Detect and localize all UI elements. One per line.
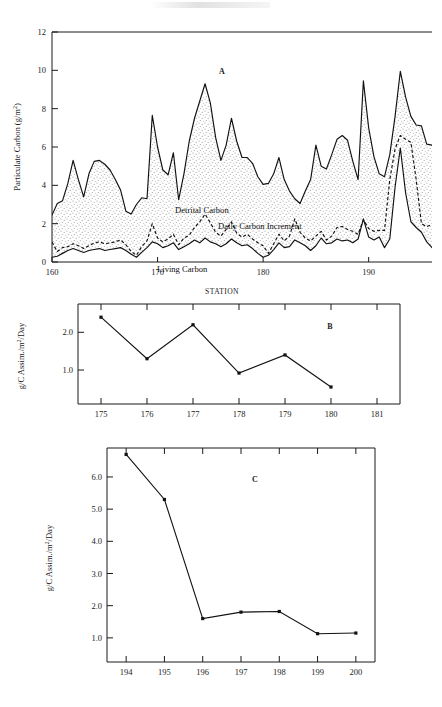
- y-tick-label: 0: [42, 257, 46, 267]
- x-tick-label: 199: [311, 667, 324, 677]
- chart-b-svg: 1.02.0 175176177178179180181 B g/C Assim…: [0, 296, 442, 441]
- chart-c-y-ticks: 1.02.03.04.05.06.0: [91, 472, 113, 643]
- data-point: [99, 316, 102, 319]
- x-tick-label: 200: [349, 667, 362, 677]
- x-tick-label: 176: [141, 409, 154, 419]
- chart-b-y-ticks: 1.02.0: [62, 327, 84, 375]
- chart-b-y-axis-title: g/C Assim./m2/Day: [16, 322, 26, 389]
- x-tick-label: 178: [233, 409, 246, 419]
- x-tick-label: 198: [273, 667, 286, 677]
- data-point: [278, 610, 281, 613]
- svg-text:g/C Assim./m2/Day: g/C Assim./m2/Day: [44, 524, 54, 591]
- data-point: [145, 357, 148, 360]
- data-point: [283, 353, 286, 356]
- data-point: [191, 323, 194, 326]
- chart-c-y-axis-title: g/C Assim./m2/Day: [44, 524, 54, 591]
- chart-panel-b: 1.02.0 175176177178179180181 B g/C Assim…: [0, 296, 442, 441]
- x-tick-label: 175: [95, 409, 108, 419]
- y-title-head-a: Particulate Carbon (g/m: [12, 109, 22, 191]
- y-tick-label: 6.0: [91, 472, 102, 482]
- y-title-head-c: g/C Assim./m: [44, 544, 54, 591]
- chart-b-x-ticks: 175176177178179180181: [95, 304, 384, 419]
- chart-c-series: [125, 453, 358, 635]
- data-point: [354, 631, 357, 634]
- data-point: [316, 632, 319, 635]
- x-tick-label: 180: [257, 267, 270, 277]
- x-tick-label: 181: [371, 409, 384, 419]
- y-tick-label: 2.0: [91, 601, 102, 611]
- svg-text:g/C Assim./m2/Day: g/C Assim./m2/Day: [16, 322, 26, 389]
- y-tick-label: 5.0: [91, 504, 102, 514]
- x-tick-label: 194: [120, 667, 134, 677]
- data-point: [201, 617, 204, 620]
- panel-a-letter: A: [219, 67, 225, 76]
- y-tick-label: 12: [38, 27, 47, 37]
- y-title-tail-c: /Day: [44, 524, 54, 541]
- y-tick-label: 1.0: [91, 633, 102, 643]
- y-tick-label: 8: [42, 104, 46, 114]
- data-line: [101, 317, 331, 387]
- label-detrital-carbon: Detrital Carbon: [175, 205, 229, 215]
- label-living-carbon: Living Carbon: [157, 264, 208, 274]
- x-tick-label: 179: [279, 409, 292, 419]
- figure-container: 024681012 160170180190 A Detrital Carbon…: [0, 0, 442, 707]
- data-point: [239, 611, 242, 614]
- chart-panel-a: 024681012 160170180190 A Detrital Carbon…: [0, 14, 442, 299]
- panel-c-letter: C: [252, 475, 258, 484]
- data-line: [126, 454, 356, 633]
- scan-artifact: [150, 2, 270, 8]
- panel-b-letter: B: [327, 322, 333, 331]
- data-point: [163, 498, 166, 501]
- y-title-head-b: g/C Assim./m: [16, 342, 26, 389]
- x-tick-label: 177: [187, 409, 200, 419]
- x-tick-label: 190: [362, 267, 375, 277]
- chart-c-x-ticks: 194195196197198199200: [120, 448, 362, 677]
- y-title-tail-b: /Day: [16, 322, 26, 339]
- y-tick-label: 4: [42, 180, 47, 190]
- chart-panel-c: 1.02.03.04.05.06.0 194195196197198199200…: [0, 440, 442, 705]
- y-tick-label: 10: [38, 65, 47, 75]
- chart-b-series: [99, 316, 332, 389]
- y-tick-label: 1.0: [62, 365, 73, 375]
- chart-a-y-axis-title: Particulate Carbon (g/m2): [12, 103, 22, 191]
- chart-c-svg: 1.02.03.04.05.06.0 194195196197198199200…: [0, 440, 442, 705]
- x-tick-label: 180: [325, 409, 338, 419]
- data-point: [329, 385, 332, 388]
- x-tick-label: 197: [235, 667, 248, 677]
- data-point: [237, 371, 240, 374]
- y-title-tail-a: ): [12, 103, 22, 106]
- svg-text:Particulate Carbon (g/m2): Particulate Carbon (g/m2): [12, 103, 22, 191]
- y-tick-label: 2: [42, 219, 46, 229]
- label-daily-carbon-increment: Daily Carbon Increment: [218, 221, 302, 231]
- chart-a-x-axis-title: STATION: [205, 287, 239, 296]
- data-point: [125, 453, 128, 456]
- x-tick-label: 195: [158, 667, 171, 677]
- x-tick-label: 160: [46, 267, 59, 277]
- x-tick-label: 196: [196, 667, 209, 677]
- y-tick-label: 6: [42, 142, 46, 152]
- y-tick-label: 4.0: [91, 536, 102, 546]
- chart-a-svg: 024681012 160170180190 A Detrital Carbon…: [0, 14, 442, 299]
- y-tick-label: 2.0: [62, 327, 73, 337]
- y-tick-label: 3.0: [91, 569, 102, 579]
- chart-a-x-ticks: 160170180190: [46, 257, 375, 277]
